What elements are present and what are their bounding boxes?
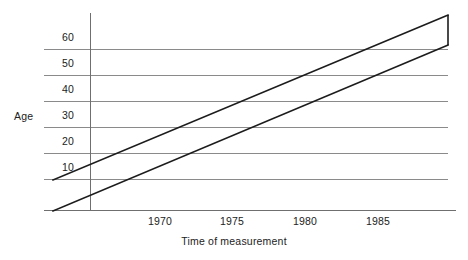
- x-tick-label-1970: 1970: [138, 215, 182, 227]
- y-tick-label-30: 30: [40, 109, 74, 121]
- series-line-upper-cohort-boundary: [53, 15, 448, 180]
- x-tick-label-1985: 1985: [356, 215, 400, 227]
- gridlines-group: [44, 50, 448, 180]
- chart-figure: 60 50 40 30 20 10 1970 1975 1980 1985 Ag…: [0, 0, 468, 260]
- y-axis-title: Age: [14, 110, 33, 122]
- y-tick-label-50: 50: [40, 57, 74, 69]
- y-tick-label-20: 20: [40, 135, 74, 147]
- x-tick-label-1980: 1980: [283, 215, 327, 227]
- y-tick-label-60: 60: [40, 31, 74, 43]
- y-tick-label-10: 10: [40, 161, 74, 173]
- x-axis-title: Time of measurement: [0, 235, 468, 247]
- x-tick-label-1975: 1975: [210, 215, 254, 227]
- y-tick-label-40: 40: [40, 83, 74, 95]
- series-group: [53, 15, 448, 211]
